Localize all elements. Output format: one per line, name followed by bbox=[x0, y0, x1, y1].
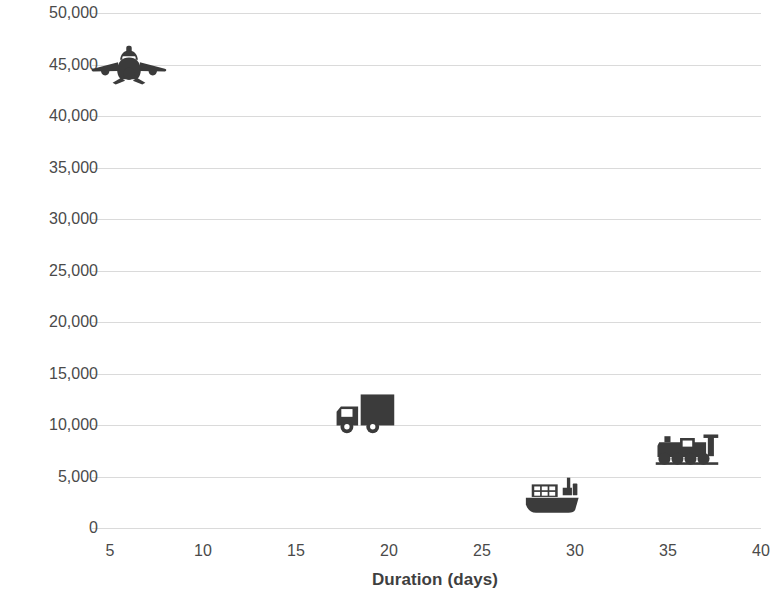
gridline bbox=[92, 13, 761, 14]
y-axis-tick-label: 15,000 bbox=[49, 365, 98, 383]
gridline bbox=[92, 271, 761, 272]
gridline bbox=[92, 65, 761, 66]
x-axis-tick-label: 20 bbox=[380, 542, 398, 560]
train-icon bbox=[654, 431, 720, 465]
airplane-icon bbox=[90, 45, 168, 85]
y-axis-tick-label: 10,000 bbox=[49, 416, 98, 434]
gridline bbox=[92, 116, 761, 117]
gridline bbox=[92, 425, 761, 426]
gridline bbox=[92, 528, 761, 529]
x-axis-tick-label: 30 bbox=[566, 542, 584, 560]
y-axis-tick-label: 35,000 bbox=[49, 159, 98, 177]
x-axis-tick-label: 40 bbox=[752, 542, 770, 560]
gridline bbox=[92, 168, 761, 169]
y-axis-tick-label: 40,000 bbox=[49, 107, 98, 125]
x-axis-tick-label: 25 bbox=[473, 542, 491, 560]
y-axis-tick-label: 25,000 bbox=[49, 262, 98, 280]
truck-icon bbox=[334, 391, 396, 435]
x-axis-tick-label: 35 bbox=[659, 542, 677, 560]
plot-area: 05,00010,00015,00020,00025,00030,00035,0… bbox=[110, 13, 761, 528]
y-axis-tick-label: 50,000 bbox=[49, 4, 98, 22]
x-axis-tick-label: 5 bbox=[106, 542, 115, 560]
y-axis-tick-label: 20,000 bbox=[49, 313, 98, 331]
y-axis-title: costs (USD) bbox=[0, 0, 34, 603]
x-axis-tick-label: 15 bbox=[287, 542, 305, 560]
gridline bbox=[92, 477, 761, 478]
gridline bbox=[92, 219, 761, 220]
y-axis-tick-label: 5,000 bbox=[58, 468, 98, 486]
gridline bbox=[92, 322, 761, 323]
y-axis-tick-label: 0 bbox=[89, 519, 98, 537]
transport-cost-duration-chart: costs (USD) 05,00010,00015,00020,00025,0… bbox=[0, 0, 781, 603]
ship-icon bbox=[520, 476, 582, 516]
x-axis-title: Duration (days) bbox=[110, 570, 760, 590]
y-axis-tick-label: 30,000 bbox=[49, 210, 98, 228]
gridline bbox=[92, 374, 761, 375]
x-axis-tick-label: 10 bbox=[194, 542, 212, 560]
